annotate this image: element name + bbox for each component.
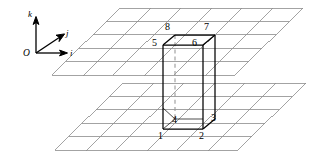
axis-i-label: i bbox=[70, 49, 73, 58]
geometry-figure: O k j i 1 2 3 4 5 6 7 8 bbox=[0, 0, 318, 159]
axis-j-label: j bbox=[66, 29, 69, 38]
axis-origin-label: O bbox=[23, 49, 30, 59]
vertex-label-8: 8 bbox=[165, 22, 170, 32]
vertex-label-1: 1 bbox=[158, 131, 163, 141]
box-hidden-edges-vertex-4 bbox=[163, 108, 203, 129]
top-grid-plane bbox=[52, 8, 303, 75]
vertex-label-2: 2 bbox=[199, 131, 204, 141]
axis-k-label: k bbox=[28, 10, 32, 19]
vertex-label-4: 4 bbox=[172, 115, 177, 125]
axis-j-line bbox=[36, 37, 60, 53]
box-top-face bbox=[163, 35, 215, 45]
coordinate-axes bbox=[33, 17, 67, 56]
vertex-label-6: 6 bbox=[192, 38, 197, 48]
vertex-label-3: 3 bbox=[211, 113, 216, 123]
vertex-label-7: 7 bbox=[204, 22, 209, 32]
vertex-label-5: 5 bbox=[152, 38, 157, 48]
bottom-grid-plane bbox=[55, 83, 306, 150]
axis-j-arrowhead bbox=[56, 34, 65, 42]
